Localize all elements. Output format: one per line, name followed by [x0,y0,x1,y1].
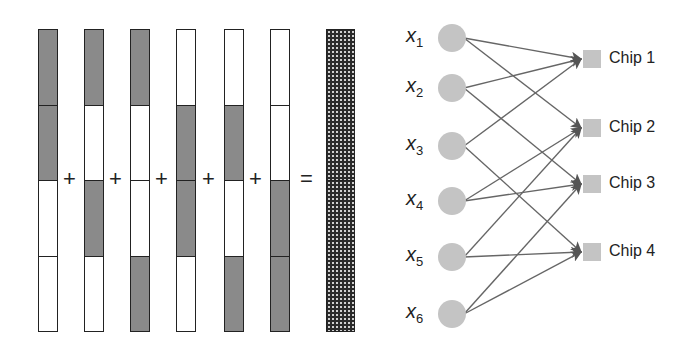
chip-label-3: Chip 3 [609,174,655,192]
input-label-3: x3 [406,132,423,158]
input-node-6 [438,300,466,328]
column-6 [270,29,290,332]
empty-segment [131,105,149,181]
input-label-6: x6 [406,300,423,326]
input-label-4: x4 [406,187,423,213]
empty-segment [85,105,103,181]
input-label-1: x1 [406,24,423,50]
filled-segment [271,180,289,256]
chip-label-4: Chip 4 [609,242,655,260]
filled-segment [177,180,195,256]
input-node-2 [438,74,466,102]
filled-segment [131,256,149,332]
empty-segment [177,256,195,332]
dotted-segment [327,256,354,332]
filled-segment [85,180,103,256]
edge-arrow [464,252,581,257]
column-5 [224,29,244,332]
plus-operator: + [249,168,262,190]
filled-segment [177,105,195,181]
dotted-segment [327,105,354,181]
filled-segment [85,30,103,105]
chip-label-1: Chip 1 [609,49,655,67]
chip-node-4 [583,243,601,261]
result-column [326,29,355,332]
empty-segment [225,30,243,105]
input-label-2: x2 [406,74,423,100]
chip-label-2: Chip 2 [609,118,655,136]
edge-arrow [464,252,581,314]
chip-node-3 [583,175,601,193]
input-node-5 [438,243,466,271]
plus-operator: + [109,168,122,190]
filled-segment [225,105,243,181]
filled-segment [271,256,289,332]
input-node-3 [438,132,466,160]
column-4 [176,29,196,332]
chip-node-1 [583,50,601,68]
edge-arrow [464,128,581,201]
empty-segment [177,30,195,105]
empty-segment [131,180,149,256]
input-label-5: x5 [406,243,423,269]
plus-operator: + [202,168,215,190]
empty-segment [39,180,57,256]
input-node-1 [438,24,466,52]
filled-segment [131,30,149,105]
empty-segment [271,30,289,105]
column-3 [130,29,150,332]
empty-segment [271,105,289,181]
empty-segment [39,256,57,332]
filled-segment [225,256,243,332]
filled-segment [39,30,57,105]
dotted-segment [327,180,354,256]
edge-arrow [464,128,581,257]
empty-segment [225,180,243,256]
column-2 [84,29,104,332]
chip-node-2 [583,119,601,137]
dotted-segment [327,30,354,105]
input-node-4 [438,187,466,215]
column-1 [38,29,58,332]
empty-segment [85,256,103,332]
edge-arrow [464,184,581,314]
plus-operator: + [63,168,76,190]
chip-assignment-graph: x1x2x3x4x5x6Chip 1Chip 2Chip 3Chip 4 [380,0,698,358]
plus-operator: + [155,168,168,190]
vector-sum-diagram: + + + + + = [0,0,380,358]
filled-segment [39,105,57,181]
edge-arrow [464,38,581,59]
equals-operator: = [300,168,313,190]
